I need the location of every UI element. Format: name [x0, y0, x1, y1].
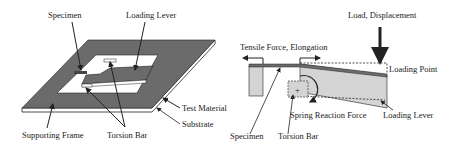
- label-torsion-bar: Torsion Bar: [107, 130, 147, 140]
- diagram-canvas: Specimen Loading Lever Test Material Sub…: [0, 0, 453, 150]
- label-test-material: Test Material: [182, 103, 228, 113]
- label-loading-point: Loading Point: [389, 64, 438, 74]
- label-spring-reaction: Spring Reaction Force: [290, 110, 367, 120]
- label-torsion-bar-right: Torsion Bar: [278, 131, 318, 141]
- specimen-shape: [74, 71, 87, 74]
- tensile-arrow-right: [300, 58, 320, 64]
- label-tensile-force: Tensile Force, Elongation: [240, 42, 328, 52]
- torsion-bar-shape: [104, 59, 116, 62]
- left-figure: Specimen Loading Lever Test Material Sub…: [22, 10, 228, 140]
- right-figure: + Load, Displacement Tensile Force, Elon…: [230, 10, 438, 141]
- label-supporting-frame: Supporting Frame: [22, 130, 84, 140]
- label-loading-lever: Loading Lever: [126, 10, 176, 20]
- label-specimen: Specimen: [48, 10, 82, 20]
- anchor-block: [249, 66, 263, 96]
- svg-text:+: +: [295, 85, 300, 95]
- tensile-arrow-left: [243, 58, 263, 64]
- label-substrate: Substrate: [182, 119, 214, 129]
- label-loading-lever-right: Loading Lever: [383, 110, 433, 120]
- label-specimen-right: Specimen: [230, 131, 264, 141]
- label-load-displacement: Load, Displacement: [348, 10, 417, 20]
